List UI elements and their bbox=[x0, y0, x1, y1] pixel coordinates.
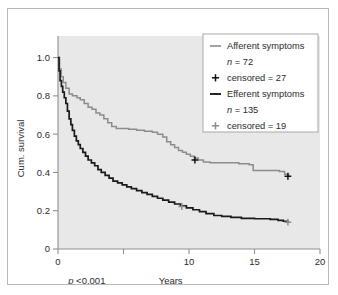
x-tick-label: 0 bbox=[55, 256, 60, 267]
y-tick-label: 0.2 bbox=[37, 205, 50, 216]
x-tick-label: 20 bbox=[315, 256, 326, 267]
x-axis-title: Years bbox=[159, 275, 183, 284]
legend-n-2: n = 135 bbox=[227, 105, 258, 115]
legend-censored-1-label: censored = 27 bbox=[227, 73, 286, 83]
y-tick-label: 0 bbox=[45, 243, 50, 254]
legend-n-1: n = 72 bbox=[227, 57, 253, 67]
figure-container: 00.20.40.60.81.00101520Cum. survivalYear… bbox=[0, 0, 338, 295]
y-tick-label: 1.0 bbox=[37, 52, 50, 63]
survival-chart: 00.20.40.60.81.00101520Cum. survivalYear… bbox=[8, 9, 328, 284]
y-tick-label: 0.8 bbox=[37, 90, 50, 101]
p-value-annotation: p <0.001 bbox=[67, 275, 105, 284]
legend-censored-2-label: censored = 19 bbox=[227, 121, 286, 131]
figure-frame: 00.20.40.60.81.00101520Cum. survivalYear… bbox=[7, 8, 329, 285]
legend-series-1-label: Afferent symptoms bbox=[227, 41, 305, 51]
y-tick-label: 0.6 bbox=[37, 129, 50, 140]
y-tick-label: 0.4 bbox=[37, 167, 50, 178]
legend-series-2-label: Efferent symptoms bbox=[227, 89, 305, 99]
y-axis-title: Cum. survival bbox=[15, 120, 26, 178]
x-tick-label: 10 bbox=[184, 256, 195, 267]
x-tick-label: 15 bbox=[249, 256, 260, 267]
